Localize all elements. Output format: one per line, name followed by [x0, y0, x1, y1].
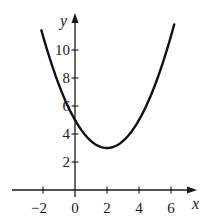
- parabola-plot: −20246 246810 x y: [0, 0, 208, 223]
- x-tick-label: 0: [71, 200, 79, 216]
- x-axis-arrow-icon: [187, 187, 197, 194]
- y-axis-label: y: [58, 12, 68, 30]
- x-tick-label: −2: [31, 200, 47, 216]
- x-tick-label: 4: [135, 200, 143, 216]
- y-tick-label: 4: [63, 126, 71, 142]
- y-tick-label: 2: [63, 154, 71, 170]
- y-tick-label: 10: [55, 42, 70, 58]
- x-ticks: −20246: [31, 187, 175, 217]
- x-axis-label: x: [191, 195, 199, 212]
- x-axis: [12, 187, 197, 194]
- y-axis-arrow-icon: [72, 13, 79, 23]
- y-axis: [72, 13, 79, 197]
- x-tick-label: 2: [103, 200, 111, 216]
- x-tick-label: 6: [167, 200, 175, 216]
- y-tick-label: 8: [63, 70, 71, 86]
